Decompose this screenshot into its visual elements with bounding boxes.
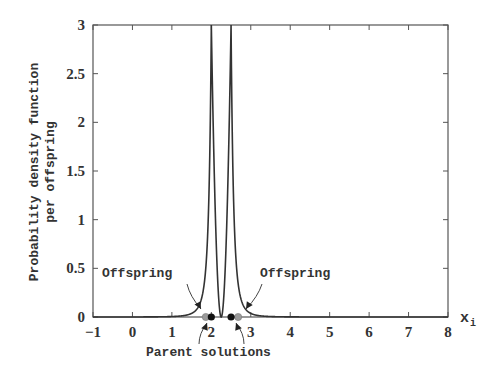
x-tick-label: 7 bbox=[405, 324, 413, 340]
y-tick-label: 0.5 bbox=[66, 260, 85, 276]
x-axis-label: x bbox=[460, 310, 469, 327]
x-axis-label-subscript: i bbox=[470, 318, 476, 329]
x-tick-label: 2 bbox=[208, 324, 216, 340]
x-tick-label: 8 bbox=[444, 324, 452, 340]
x-tick-label: −1 bbox=[85, 324, 101, 340]
y-axis-label-line1: Probability density function bbox=[27, 63, 42, 282]
y-tick-label: 2 bbox=[78, 114, 86, 130]
y-tick-label: 3 bbox=[78, 17, 86, 33]
x-tick-label: 5 bbox=[326, 324, 334, 340]
y-tick-label: 0 bbox=[78, 309, 86, 325]
offspring-label-right: Offspring bbox=[260, 266, 330, 281]
y-tick-label: 1.5 bbox=[66, 163, 85, 179]
parent-dot bbox=[208, 313, 215, 320]
x-tick-label: 6 bbox=[365, 324, 373, 340]
y-tick-label: 1 bbox=[78, 212, 86, 228]
x-tick-label: 0 bbox=[129, 324, 137, 340]
offspring-dot bbox=[235, 313, 242, 320]
parent-dot bbox=[227, 313, 234, 320]
y-tick-label: 2.5 bbox=[66, 66, 85, 82]
x-tick-label: 1 bbox=[168, 324, 176, 340]
offspring-label-left: Offspring bbox=[102, 266, 172, 281]
x-tick-label: 3 bbox=[247, 324, 255, 340]
x-tick-label: 4 bbox=[286, 324, 294, 340]
y-axis-label-line2: per offspring bbox=[43, 121, 58, 223]
pdf-chart: −101234567800.511.522.53 Probability den… bbox=[0, 0, 494, 375]
parent-solutions-label: Parent solutions bbox=[146, 345, 271, 360]
